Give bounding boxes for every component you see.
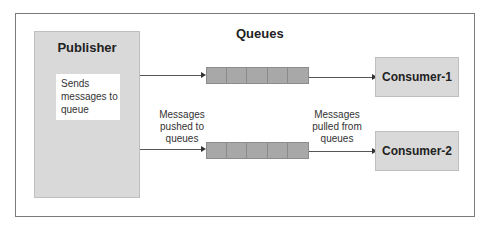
queue-2 (206, 142, 309, 159)
queue-cell (207, 143, 227, 158)
publisher-title: Publisher (35, 40, 139, 55)
queue-cell (268, 68, 288, 83)
publisher-note: Sends messages to queue (56, 74, 120, 120)
queue-cell (247, 143, 267, 158)
queue-cell (268, 143, 288, 158)
queue-cell (227, 143, 247, 158)
queue-1 (206, 67, 309, 84)
queues-title: Queues (236, 26, 284, 41)
queue-cell (247, 68, 267, 83)
arrow-queue-2-to-consumer-2 (309, 151, 374, 152)
queue-cell (227, 68, 247, 83)
queue-cell (288, 143, 308, 158)
pull-label: Messages pulled from queues (302, 109, 372, 145)
queue-cell (288, 68, 308, 83)
arrow-publisher-to-queue-1 (140, 75, 202, 76)
push-label: Messages pushed to queues (143, 109, 221, 145)
arrow-queue-1-to-consumer-1 (309, 77, 374, 78)
queue-cell (207, 68, 227, 83)
arrow-publisher-to-queue-2 (140, 149, 202, 150)
consumer-2-box: Consumer-2 (375, 131, 459, 171)
publisher-box: Publisher Sends messages to queue (34, 31, 140, 198)
consumer-1-box: Consumer-1 (375, 57, 459, 97)
